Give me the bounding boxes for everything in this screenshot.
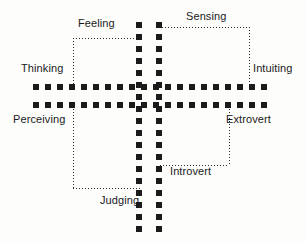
intuiting-bracket-right xyxy=(249,27,250,87)
label-introvert: Introvert xyxy=(170,165,211,178)
vertical-right-axis xyxy=(156,22,162,236)
feeling-bracket-top xyxy=(73,38,142,39)
horizontal-lower-axis xyxy=(33,102,270,108)
judging-bracket-bottom xyxy=(73,188,140,189)
label-intuiting: Intuiting xyxy=(253,62,292,75)
label-judging: Judging xyxy=(100,194,139,207)
label-sensing: Sensing xyxy=(186,10,226,23)
label-extrovert: Extrovert xyxy=(226,113,271,126)
thinking-bracket-left xyxy=(73,38,74,86)
horizontal-upper-axis xyxy=(33,84,270,90)
label-feeling: Feeling xyxy=(78,17,115,30)
label-perceiving: Perceiving xyxy=(13,113,65,126)
mbti-cross-diagram: Feeling Sensing Thinking Intuiting Perce… xyxy=(0,0,306,242)
sensing-bracket-top xyxy=(159,27,249,28)
label-thinking: Thinking xyxy=(21,62,63,75)
perceiving-bracket-left xyxy=(73,103,74,188)
